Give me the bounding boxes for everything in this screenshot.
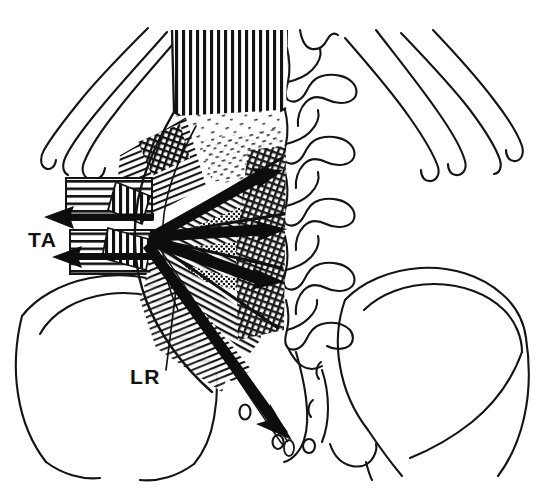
anatomical-figure: TA LR	[0, 0, 547, 492]
anatomy-diagram-canvas: TA LR	[0, 0, 547, 492]
label-lr: LR	[130, 365, 161, 388]
label-ta: TA	[28, 228, 57, 251]
